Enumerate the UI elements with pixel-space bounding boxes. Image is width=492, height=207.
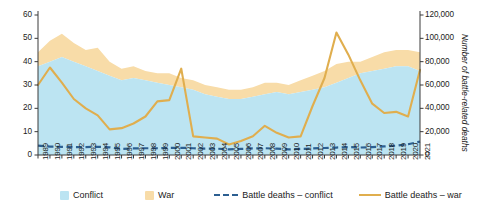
y-axis-left-tick-label: 60 — [2, 10, 32, 19]
x-axis-tick-label: 1991 — [65, 143, 74, 160]
y-axis-left-tick-label: 30 — [2, 80, 32, 89]
x-axis-tick-label: 2011 — [304, 144, 313, 160]
chart-legend: ConflictWarBattle deaths – conflictBattl… — [60, 188, 432, 202]
x-axis-tick-label: 2015 — [352, 143, 361, 160]
x-axis-tick-label: 1992 — [77, 143, 86, 160]
x-axis-tick-label: 2019 — [399, 143, 408, 160]
x-axis-tick-label: 2003 — [208, 143, 217, 160]
x-axis-tick-label: 2006 — [244, 143, 253, 160]
y-axis-left-tick-label: 0 — [2, 150, 32, 159]
x-axis-tick-label: 2002 — [196, 143, 205, 160]
legend-swatch-icon — [60, 191, 69, 200]
x-axis-tick-label: 1996 — [125, 143, 134, 160]
x-axis-tick-label: 1997 — [137, 143, 146, 160]
y-axis-right-tick-label: 120,000 — [425, 10, 471, 19]
x-axis-tick-label: 2000 — [173, 143, 182, 160]
x-axis-tick-label: 2021 — [423, 143, 432, 160]
area-series-group — [38, 34, 420, 155]
x-axis-tick-label: 2007 — [256, 143, 265, 160]
y-axis-left-tick-label: 50 — [2, 33, 32, 42]
x-axis-tick-label: 2005 — [232, 143, 241, 160]
x-axis-tick-label: 2013 — [328, 143, 337, 160]
x-axis-tick-label: 2014 — [340, 143, 349, 160]
x-axis-tick-label: 2016 — [364, 143, 373, 160]
x-axis-tick-label: 2009 — [280, 143, 289, 160]
x-axis-tick-label: 1998 — [149, 143, 158, 160]
x-axis-tick-label: 2018 — [387, 143, 396, 160]
x-axis-tick-label: 2008 — [268, 143, 277, 160]
x-axis-tick-label: 2017 — [375, 143, 384, 160]
legend-swatch-icon — [145, 191, 154, 200]
x-axis-tick-label: 2012 — [316, 143, 325, 160]
legend-item[interactable]: Battle deaths – conflict — [214, 190, 333, 200]
y-axis-left-tick-label: 40 — [2, 57, 32, 66]
legend-label: War — [158, 190, 174, 200]
chart-figure: 0102030405060 020,00040,00060,00080,0001… — [0, 0, 492, 207]
legend-item[interactable]: Conflict — [60, 190, 103, 200]
legend-item[interactable]: War — [145, 190, 174, 200]
legend-item[interactable]: Battle deaths – war — [359, 190, 462, 200]
legend-dashed-line-icon — [214, 194, 238, 196]
y-axis-right-title: Number of battle-related deaths — [460, 34, 470, 152]
legend-label: Conflict — [73, 190, 103, 200]
x-axis-tick-label: 1989 — [41, 143, 50, 160]
chart-canvas — [0, 0, 492, 207]
legend-label: Battle deaths – conflict — [242, 190, 333, 200]
y-axis-left-tick-label: 20 — [2, 103, 32, 112]
legend-label: Battle deaths – war — [385, 190, 462, 200]
x-axis-tick-label: 1995 — [113, 143, 122, 160]
x-axis-tick-label: 2004 — [220, 143, 229, 160]
y-axis-left-tick-label: 10 — [2, 127, 32, 136]
x-axis-tick-label: 2001 — [184, 143, 193, 160]
x-axis-tick-label: 1990 — [53, 143, 62, 160]
x-axis-tick-label: 2010 — [292, 143, 301, 160]
x-axis-tick-label: 1999 — [161, 143, 170, 160]
x-axis-tick-label: 1994 — [101, 143, 110, 160]
x-axis-tick-label: 2020 — [411, 143, 420, 160]
x-axis-tick-label: 1993 — [89, 143, 98, 160]
legend-solid-line-icon — [359, 194, 381, 196]
